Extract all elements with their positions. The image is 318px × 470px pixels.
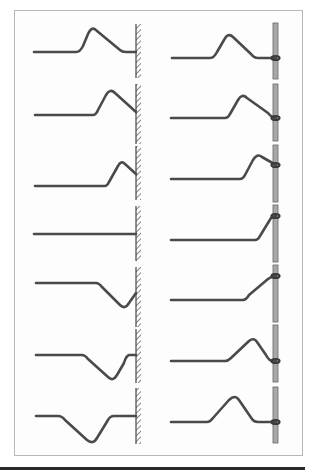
rod-segment: [273, 84, 278, 141]
rod-segment: [273, 23, 278, 79]
wave-reflection-diagram: [0, 0, 318, 470]
rod-segment: [273, 325, 278, 382]
string-free-step-3: [171, 156, 276, 179]
string-free-step-5: [171, 276, 276, 300]
string-fixed-step-7: [36, 416, 136, 442]
string-fixed-step-3: [35, 162, 136, 186]
wall-segment: [136, 267, 141, 327]
string-free-step-6: [171, 339, 276, 361]
string-fixed-step-6: [36, 355, 136, 379]
string-free-step-7: [171, 397, 276, 422]
rod-segment: [273, 145, 278, 202]
rod-segment: [273, 387, 278, 443]
string-fixed-step-1: [34, 29, 136, 52]
free-end-rod: [273, 23, 278, 443]
string-fixed-step-2: [35, 91, 136, 115]
string-free-step-4: [171, 216, 276, 240]
string-fixed-step-5: [36, 283, 136, 307]
string-free-step-2: [171, 96, 276, 118]
wall-segment: [136, 84, 141, 144]
string-free-step-1: [172, 35, 276, 58]
